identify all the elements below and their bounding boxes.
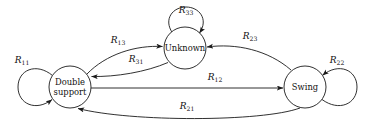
node-double-support-label-line1: Double (55, 77, 85, 87)
edge-label-r13: R13 (110, 35, 126, 46)
edge-r11-path (18, 69, 53, 106)
node-swing-label: Swing (292, 82, 319, 92)
edge-r31-path (92, 63, 169, 77)
edge-r23-path (207, 46, 291, 70)
node-double-support-label-line2: support (54, 87, 87, 97)
node-unknown-label: Unknown (165, 43, 206, 53)
edge-label-r12: R12 (207, 72, 223, 83)
edge-label-r21: R21 (179, 101, 195, 112)
edge-r22-path (322, 69, 357, 106)
edge-label-r23: R23 (242, 31, 258, 42)
edge-label-r11: R11 (14, 55, 30, 66)
edge-label-r22: R22 (329, 55, 345, 66)
edge-label-r31: R31 (128, 54, 144, 65)
diagram-canvas: Double support Unknown Swing R11 R33 R22… (0, 0, 367, 126)
edge-r13-path (87, 46, 163, 74)
state-transition-diagram: Double support Unknown Swing R11 R33 R22… (0, 0, 367, 126)
